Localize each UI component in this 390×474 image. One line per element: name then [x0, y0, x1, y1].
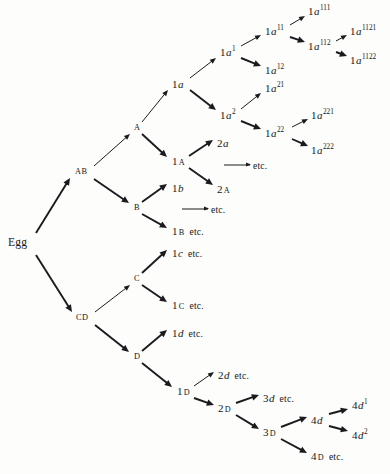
node-generation-number: 1 — [311, 109, 317, 121]
node-generation-number: 1 — [172, 78, 178, 90]
lineage-diagram: EggABCDABCD1a1A1b1Betc.1cetc.1Cetc.1detc… — [0, 0, 390, 474]
node-1cetc: 1cetc. — [172, 248, 202, 259]
edge-1a-to-1a1 — [190, 58, 216, 78]
node-4Detc: 4Detc. — [311, 451, 343, 462]
node-generation-number: 2 — [218, 402, 224, 414]
edge-1A-to-2a — [189, 140, 213, 156]
edge-1D-to-2detc — [194, 372, 214, 386]
node-lineage-letter: a — [226, 109, 232, 121]
continuation-label: etc. — [208, 204, 225, 215]
node-lineage-letter: d — [358, 399, 364, 411]
edge-D-to-1detc — [142, 330, 167, 351]
node-generation-number: 1 — [177, 385, 183, 397]
edge-1a112-to-1a1122 — [336, 50, 347, 56]
node-lineage-letter-smallcap: D — [317, 453, 324, 462]
node-1D: 1D — [177, 386, 190, 397]
node-generation-number: 4 — [352, 399, 358, 411]
node-generation-number: 2 — [218, 369, 224, 381]
node-1a: 1a — [172, 79, 184, 90]
node-generation-number: 4 — [352, 429, 358, 441]
node-2D: 2D — [218, 403, 231, 414]
node-1a112: 1a112 — [308, 41, 331, 52]
node-generation-number: 2 — [217, 183, 223, 195]
edge-egg-to-AB — [36, 178, 70, 233]
node-generation-number: 1 — [350, 25, 356, 37]
edge-1a22-to-1a221 — [292, 119, 308, 127]
node-3D: 3D — [263, 427, 276, 438]
node-1a11: 1a11 — [265, 26, 284, 37]
node-lineage-letter-smallcap: D — [183, 388, 190, 397]
node-1a12: 1a12 — [265, 65, 284, 76]
node-generation-number: 1 — [265, 82, 271, 94]
node-continuation-label: etc. — [184, 328, 203, 339]
node-CD: CD — [76, 314, 89, 322]
edge-B-to-1b — [142, 184, 167, 202]
node-4d1: 4d1 — [352, 400, 368, 411]
node-generation-number: 1 — [172, 327, 178, 339]
node-lineage-letter: d — [269, 392, 275, 404]
continuation-arrow-icon — [182, 209, 208, 210]
node-lineage-letter: a — [271, 64, 277, 76]
edge-2D-to-3D — [236, 415, 259, 429]
edge-A-to-1A — [142, 134, 167, 157]
node-lineage-letter: a — [226, 46, 232, 58]
node-AB: AB — [75, 168, 88, 176]
node-1a22: 1a22 — [265, 128, 284, 139]
node-superscript: 1121 — [362, 24, 377, 32]
edge-1a2-to-1a21 — [241, 93, 261, 109]
edge-3D-to-4d — [281, 417, 307, 427]
node-generation-number: 1 — [265, 25, 271, 37]
node-lineage-letter: a — [178, 78, 184, 90]
edge-A-to-1a — [142, 90, 168, 122]
node-2a: 2a — [217, 138, 229, 149]
node-lineage-letter: a — [317, 109, 323, 121]
continuation-label: etc. — [250, 160, 267, 171]
edge-B-to-1Betc — [142, 214, 167, 228]
node-generation-number: 1 — [350, 54, 356, 66]
node-2detc: 2detc. — [218, 370, 249, 381]
node-1b: 1b — [172, 183, 184, 194]
node-superscript: 221 — [323, 108, 334, 116]
node-generation-number: 1 — [172, 225, 178, 237]
node-3detc: 3detc. — [263, 393, 294, 404]
node-lineage-letter: a — [223, 137, 229, 149]
node-generation-number: 1 — [172, 155, 178, 167]
node-C: C — [134, 275, 140, 283]
edge-D-to-1D — [142, 363, 172, 387]
edge-egg-to-CD — [36, 255, 72, 312]
node-1a1121: 1a1121 — [350, 26, 376, 37]
node-generation-number: 1 — [308, 5, 314, 17]
node-B: B — [134, 204, 140, 212]
edge-1a22-to-1a222 — [292, 139, 308, 146]
edge-1a-to-1a2 — [190, 90, 216, 110]
edge-CD-to-C — [95, 285, 130, 312]
edge-4d-to-4d2 — [329, 426, 348, 432]
node-generation-number: 1 — [265, 64, 271, 76]
edge-1a11-to-1a111 — [290, 16, 305, 25]
node-egg: Egg — [8, 237, 27, 249]
node-lineage-letter: a — [314, 40, 320, 52]
edge-AB-to-B — [94, 179, 129, 203]
continuation-arrow-icon — [224, 165, 250, 166]
node-label: AB — [75, 167, 88, 176]
node-label: A — [134, 123, 140, 132]
edge-C-to-1cetc — [142, 250, 167, 273]
node-continuation-label: etc. — [275, 393, 294, 404]
node-lineage-letter: d — [317, 414, 323, 426]
node-superscript: 21 — [277, 81, 285, 89]
node-continuation-label: etc. — [230, 370, 249, 381]
cont-B: etc. — [182, 204, 225, 215]
node-lineage-letter-smallcap: A — [223, 186, 230, 195]
edge-1a2-to-1a22 — [241, 121, 261, 129]
node-lineage-letter: a — [317, 144, 323, 156]
node-generation-number: 1 — [220, 46, 226, 58]
node-generation-number: 1 — [172, 182, 178, 194]
edge-1A-to-2A — [189, 168, 213, 185]
node-generation-number: 1 — [172, 299, 178, 311]
edge-CD-to-D — [95, 325, 129, 352]
node-lineage-letter: a — [271, 82, 277, 94]
node-lineage-letter: a — [356, 54, 362, 66]
edge-1a1-to-1a12 — [241, 58, 261, 66]
node-1a221: 1a221 — [311, 110, 334, 121]
node-1Betc: 1Betc. — [172, 226, 204, 237]
